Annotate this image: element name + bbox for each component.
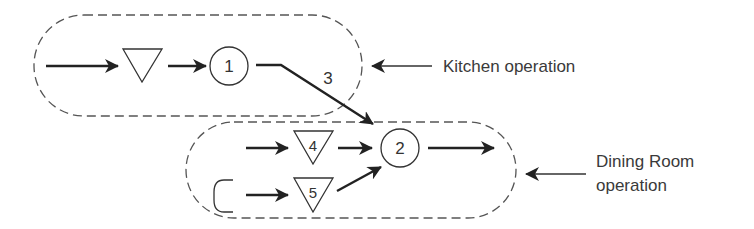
process-diagram: 1 3 4 2 5 Kitchen operation Dining Room … bbox=[0, 0, 754, 229]
transport-arrow-3 bbox=[256, 65, 373, 124]
transport-3-label: 3 bbox=[323, 69, 332, 88]
storage-4-label: 4 bbox=[309, 137, 317, 154]
storage-5-label: 5 bbox=[309, 184, 317, 201]
operation-2-label: 2 bbox=[395, 139, 404, 158]
dining-room-label-line2: operation bbox=[596, 176, 667, 195]
arrow-storage5-to-op2 bbox=[337, 167, 381, 191]
operation-1-label: 1 bbox=[224, 57, 233, 76]
dining-room-label-line1: Dining Room bbox=[596, 152, 694, 171]
dining-group-boundary bbox=[186, 122, 516, 218]
kitchen-operation-label: Kitchen operation bbox=[443, 57, 575, 76]
storage-triangle-kitchen bbox=[123, 49, 162, 82]
c-shape-icon bbox=[214, 180, 233, 212]
